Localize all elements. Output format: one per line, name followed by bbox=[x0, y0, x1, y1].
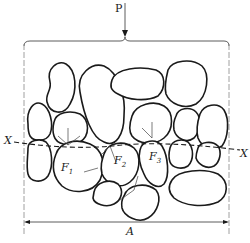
granular-diagram: P bbox=[0, 0, 250, 243]
diagram-canvas: P bbox=[0, 0, 250, 243]
load-arrow bbox=[122, 3, 128, 37]
width-label: A bbox=[125, 225, 134, 238]
x-left-label: X bbox=[3, 134, 13, 147]
dimension-a bbox=[24, 220, 229, 224]
top-brace bbox=[24, 37, 229, 46]
load-label: P bbox=[115, 2, 123, 15]
grains bbox=[27, 61, 228, 220]
x-right-label: X bbox=[239, 147, 249, 160]
